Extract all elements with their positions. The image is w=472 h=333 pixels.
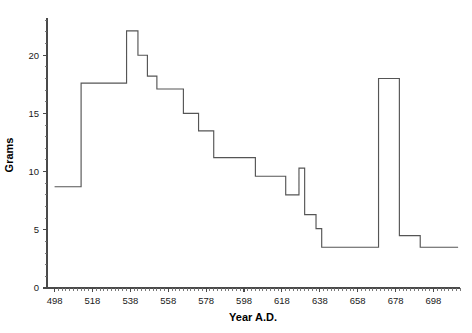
y-tick-label: 15 xyxy=(28,108,39,119)
chart-page: 05101520 4985185385585785986186386586786… xyxy=(0,0,472,333)
x-tick-label: 578 xyxy=(198,295,214,306)
step-chart: 05101520 4985185385585785986186386586786… xyxy=(0,0,472,333)
x-tick-label: 638 xyxy=(312,295,328,306)
y-axis-group: 05101520 xyxy=(28,18,47,293)
x-tick-label: 658 xyxy=(350,295,366,306)
x-tick-label: 678 xyxy=(388,295,404,306)
x-axis-group: 498518538558578598618638658678698 xyxy=(47,288,460,306)
y-tick-label: 0 xyxy=(34,282,39,293)
x-minor-ticks xyxy=(58,288,460,291)
x-tick-label: 598 xyxy=(236,295,252,306)
step-series-line xyxy=(55,31,459,247)
x-tick-label: 518 xyxy=(85,295,101,306)
y-tick-label: 10 xyxy=(28,166,39,177)
x-tick-label: 558 xyxy=(160,295,176,306)
x-tick-label: 618 xyxy=(274,295,290,306)
x-tick-labels: 498518538558578598618638658678698 xyxy=(47,295,442,306)
x-tick-label: 538 xyxy=(122,295,138,306)
y-tick-label: 5 xyxy=(34,224,39,235)
y-axis-title: Grams xyxy=(3,138,15,173)
x-axis-title: Year A.D. xyxy=(229,311,277,323)
x-tick-label: 498 xyxy=(47,295,63,306)
y-tick-labels: 05101520 xyxy=(28,50,39,294)
x-tick-label: 698 xyxy=(426,295,442,306)
y-tick-label: 20 xyxy=(28,50,39,61)
